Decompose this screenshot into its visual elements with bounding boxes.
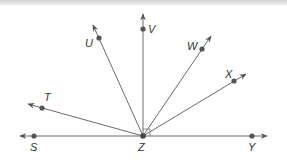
point-u bbox=[96, 35, 101, 40]
label-s: S bbox=[30, 141, 38, 153]
label-y: Y bbox=[248, 141, 256, 153]
label-w: W bbox=[187, 40, 199, 52]
ray-ZX bbox=[143, 74, 246, 136]
vertex-point-z bbox=[140, 133, 146, 139]
point-w bbox=[199, 46, 204, 51]
label-x: X bbox=[224, 68, 233, 80]
label-t: T bbox=[44, 91, 52, 103]
point-v bbox=[140, 26, 145, 31]
label-z: Z bbox=[137, 141, 146, 153]
ray-ZU bbox=[93, 25, 143, 136]
label-u: U bbox=[85, 37, 93, 49]
point-t bbox=[39, 105, 44, 110]
label-v: V bbox=[148, 23, 157, 35]
geometry-diagram: S T U V W X Y Z bbox=[0, 0, 287, 167]
ray-ZT bbox=[28, 104, 143, 136]
point-s bbox=[31, 133, 36, 138]
point-y bbox=[249, 133, 254, 138]
